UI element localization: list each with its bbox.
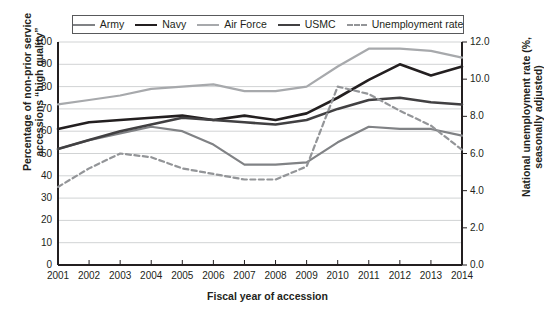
y-axis-left-tick-label: 40	[26, 171, 52, 181]
x-axis-title: Fiscal year of accession	[0, 290, 535, 302]
y-axis-right-title: National unemployment rate (%, seasonall…	[520, 37, 544, 197]
y-axis-left-tick-label: 10	[26, 238, 52, 248]
x-axis-tick-label: 2007	[227, 271, 261, 281]
x-axis-tick-label: 2011	[352, 271, 386, 281]
x-axis-tick-label: 2002	[72, 271, 106, 281]
y-axis-right-tick-label: 12.0	[470, 37, 500, 47]
x-axis-tick-label: 2006	[196, 271, 230, 281]
y-axis-right-tick-label: 6.0	[470, 149, 500, 159]
y-axis-left-tick-label: 60	[26, 126, 52, 136]
x-axis-tick-label: 2008	[259, 271, 293, 281]
y-axis-right-tick-label: 2.0	[470, 223, 500, 233]
y-axis-left-tick-label: 20	[26, 215, 52, 225]
x-axis-tick-label: 2010	[321, 271, 355, 281]
series-line-usmc	[58, 98, 462, 149]
x-axis-tick-label: 2004	[134, 271, 168, 281]
y-axis-left-tick-label: 50	[26, 149, 52, 159]
x-axis-tick-label: 2003	[103, 271, 137, 281]
x-axis-tick-label: 2013	[414, 271, 448, 281]
y-axis-right-tick-label: 0.0	[470, 260, 500, 270]
y-axis-right-tick-label: 8.0	[470, 111, 500, 121]
y-axis-left-tick-label: 0	[26, 260, 52, 270]
x-axis-tick-label: 2009	[290, 271, 324, 281]
y-axis-left-tick-label: 90	[26, 59, 52, 69]
series-line-air-force	[58, 49, 462, 105]
y-axis-left-tick-label: 30	[26, 193, 52, 203]
series-line-unemployment-rate	[58, 87, 462, 187]
y-axis-left-tick-label: 100	[26, 37, 52, 47]
y-axis-right-tick-label: 10.0	[470, 74, 500, 84]
y-axis-left-tick-label: 70	[26, 104, 52, 114]
x-axis-tick-label: 2001	[41, 271, 75, 281]
x-axis-tick-label: 2005	[165, 271, 199, 281]
y-axis-right-tick-label: 4.0	[470, 186, 500, 196]
x-axis-tick-label: 2012	[383, 271, 417, 281]
y-axis-left-tick-label: 80	[26, 82, 52, 92]
x-axis-tick-label: 2014	[445, 271, 479, 281]
